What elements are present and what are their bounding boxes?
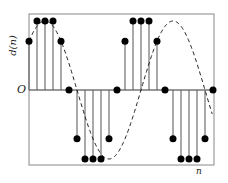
sample-dot <box>178 156 185 163</box>
sample-dot <box>42 18 49 25</box>
sample-dot <box>202 135 209 142</box>
sample-dot <box>26 38 33 45</box>
sample-dot <box>138 18 145 25</box>
sample-dot <box>186 156 193 163</box>
sample-dot <box>194 156 201 163</box>
sample-dot <box>90 156 97 163</box>
sample-dot <box>66 87 73 94</box>
sample-dot <box>122 38 129 45</box>
sample-dot <box>34 18 41 25</box>
origin-label: O <box>17 83 26 96</box>
stem-plot <box>0 0 228 183</box>
sample-dot <box>114 87 121 94</box>
sample-dot <box>50 18 57 25</box>
sample-dot <box>162 87 169 94</box>
sample-dot <box>82 156 89 163</box>
sample-dot <box>58 38 65 45</box>
sample-dot <box>154 38 161 45</box>
sample-dot <box>210 87 217 94</box>
sample-dot <box>146 18 153 25</box>
sample-dot <box>130 18 137 25</box>
sample-dot <box>106 135 113 142</box>
x-axis-label: n <box>196 166 202 176</box>
sample-dot <box>74 135 81 142</box>
y-axis-label: d(n) <box>7 35 18 56</box>
sample-dot <box>98 156 105 163</box>
sample-dot <box>170 135 177 142</box>
